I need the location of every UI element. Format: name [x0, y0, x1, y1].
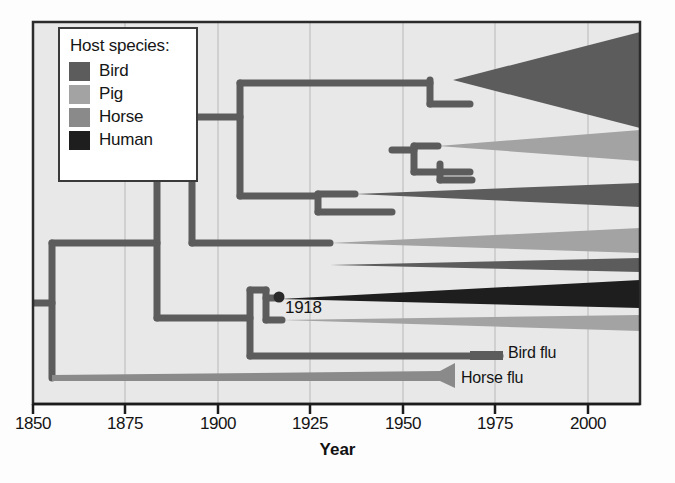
x-axis: [33, 404, 640, 414]
legend-item-pig: Pig: [69, 84, 196, 104]
axis-tick-1950: 1950: [368, 414, 438, 434]
legend-item-bird: Bird: [69, 61, 196, 81]
axis-tick-1900: 1900: [183, 414, 253, 434]
legend-swatch-horse: [69, 108, 90, 127]
legend-title: Host species:: [70, 36, 196, 56]
legend-label-bird: Bird: [99, 61, 128, 81]
legend-label-human: Human: [99, 130, 153, 150]
tip-label-horse-flu: Horse flu: [461, 369, 523, 387]
legend-item-horse: Horse: [69, 107, 196, 127]
legend-label-horse: Horse: [99, 107, 143, 127]
axis-title-year: Year: [0, 440, 675, 460]
node-label-1918: 1918: [285, 298, 322, 318]
legend-label-pig: Pig: [99, 84, 123, 104]
legend-swatch-human: [69, 131, 90, 150]
legend: Host species: Bird Pig Horse Human: [58, 27, 198, 182]
node-dot-1918: [274, 292, 285, 303]
bird-flu-tip-marker: [470, 351, 503, 360]
axis-tick-1850: 1850: [0, 414, 68, 434]
tip-label-bird-flu: Bird flu: [508, 344, 556, 362]
legend-swatch-bird: [69, 62, 90, 81]
phylogenetic-tree-figure: Host species: Bird Pig Horse Human 1918 …: [0, 0, 675, 483]
axis-tick-2000: 2000: [553, 414, 623, 434]
axis-tick-1925: 1925: [275, 414, 345, 434]
legend-swatch-pig: [69, 85, 90, 104]
axis-tick-1975: 1975: [460, 414, 530, 434]
axis-tick-1875: 1875: [90, 414, 160, 434]
legend-item-human: Human: [69, 130, 196, 150]
